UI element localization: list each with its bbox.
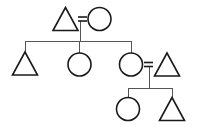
sibship-2 (128, 88, 172, 98)
g3-triangle-triangle-symbol (160, 98, 185, 121)
g2-triangle-right-triangle-symbol (155, 53, 180, 76)
g2-circle-right: G2 circle right (120, 53, 143, 76)
generation-1: G1 triangleG1 circle (53, 8, 111, 31)
g3-circle-circle-symbol (117, 98, 140, 121)
g3-triangle: G3 triangle (160, 98, 185, 121)
sibship-1 (25, 41, 131, 53)
g2-circle-middle: G2 circle middle (68, 53, 91, 76)
pedigree-diagram-svg: G1 triangleG1 circleG2 triangle leftG2 c… (0, 0, 197, 133)
g1-triangle-triangle-symbol (53, 8, 78, 31)
g2-triangle-right: G2 triangle right (155, 53, 180, 76)
generation-2: G2 triangle leftG2 circle middleG2 circl… (13, 52, 180, 76)
g2-triangle-left-triangle-symbol (13, 52, 38, 75)
g1-circle-circle-symbol (88, 8, 111, 31)
g2-circle-middle-circle-symbol (68, 53, 91, 76)
g2-triangle-left: G2 triangle left (13, 52, 38, 75)
union-2-equals-sign (144, 63, 153, 67)
g3-circle: G3 circle (117, 98, 140, 121)
g2-circle-right-circle-symbol (120, 53, 143, 76)
g1-circle: G1 circle (88, 8, 111, 31)
pedigree-chart: Pedigree chart G1 triangleG1 circleG2 tr… (0, 0, 197, 133)
g1-triangle: G1 triangle (53, 8, 78, 31)
individual-symbols-layer: G1 triangleG1 circleG2 triangle leftG2 c… (13, 8, 185, 121)
generation-3: G3 circleG3 triangle (117, 98, 185, 121)
union-1-equals-sign (78, 17, 87, 21)
connector-lines-layer (25, 21, 172, 98)
